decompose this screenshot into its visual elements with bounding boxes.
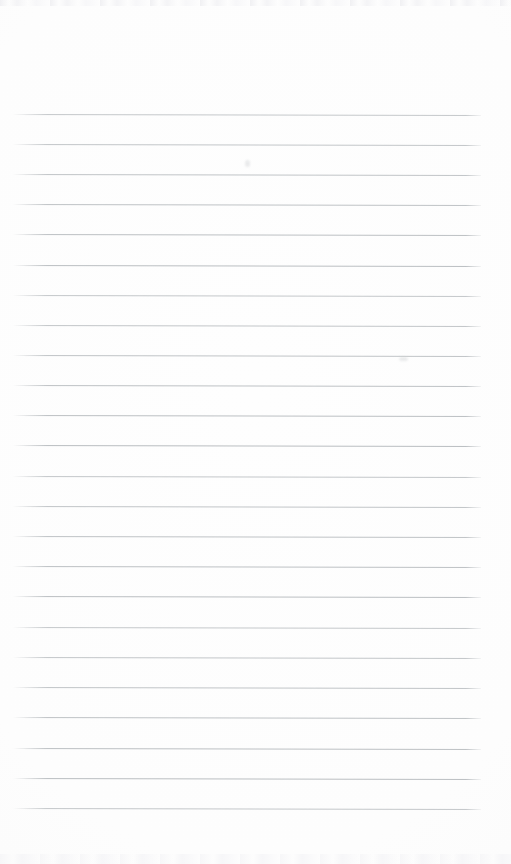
ruled-line — [13, 687, 481, 689]
ruled-line — [13, 566, 481, 568]
ruled-line — [13, 385, 481, 387]
scanned-page — [0, 0, 511, 864]
ruled-line — [13, 657, 481, 659]
ruled-line — [13, 627, 481, 629]
ruled-line — [13, 234, 481, 236]
ruled-line — [13, 748, 481, 750]
ruled-line — [13, 536, 481, 538]
ruled-line — [13, 415, 481, 417]
ruled-line — [13, 144, 481, 146]
ruled-line — [13, 174, 481, 176]
ruled-line — [13, 114, 481, 116]
ruled-line — [13, 204, 481, 206]
ruled-line — [13, 476, 481, 478]
ruled-line — [13, 596, 481, 598]
ruled-line — [13, 808, 481, 810]
ruled-line — [13, 295, 481, 297]
ruled-lines-group — [0, 0, 511, 864]
ruled-line — [13, 778, 481, 780]
ruled-line — [13, 325, 481, 327]
ruled-line — [13, 445, 481, 447]
ruled-line — [13, 717, 481, 719]
ruled-line — [13, 265, 481, 267]
ruled-line — [13, 506, 481, 508]
ruled-line — [13, 355, 481, 357]
